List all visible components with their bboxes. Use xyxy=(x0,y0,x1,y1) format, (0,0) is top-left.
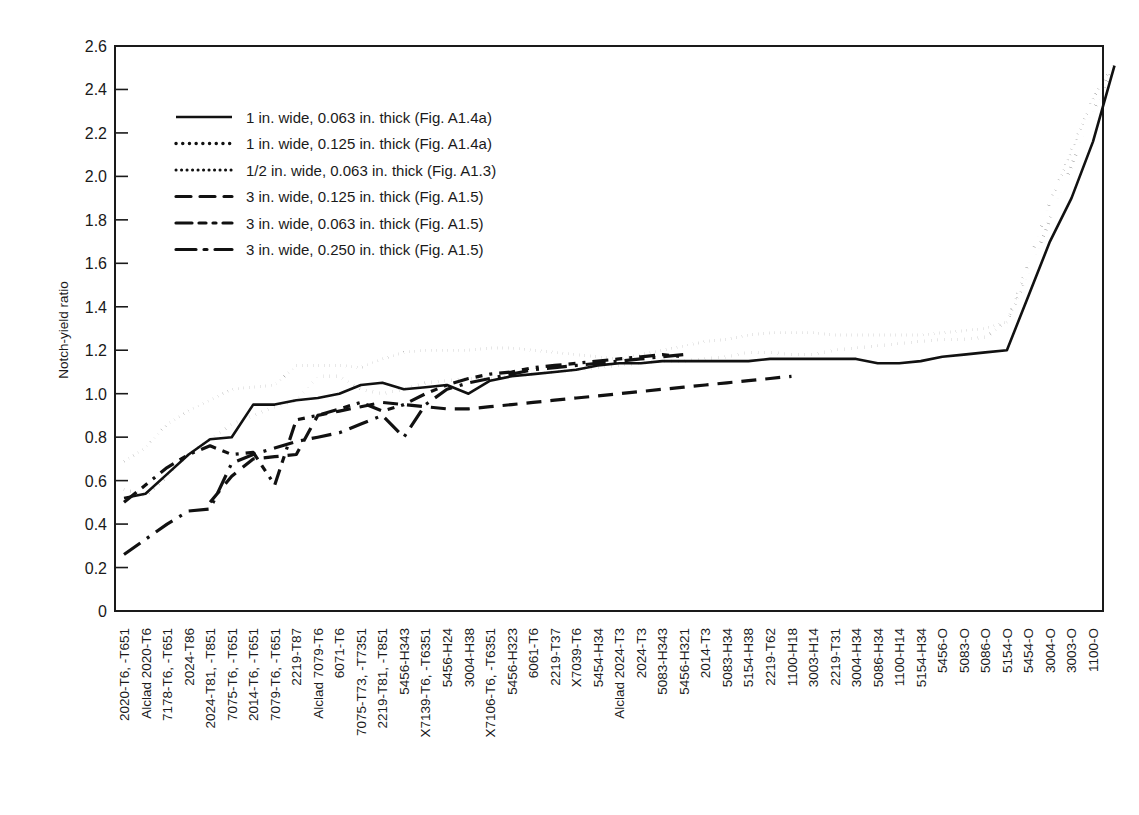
y-axis-tick-label: 0.4 xyxy=(85,516,107,533)
x-axis-tick-label: 5083-O xyxy=(957,628,972,673)
x-axis-tick-label: 5154-O xyxy=(1000,628,1015,673)
x-axis-tick-label: 3004-H34 xyxy=(849,628,864,688)
x-axis-tick-label: 5454-O xyxy=(1021,628,1036,673)
y-axis-tick-label: 0.8 xyxy=(85,429,107,446)
y-axis-tick-label: 2.0 xyxy=(85,168,107,185)
x-axis-tick-label: 5456-H323 xyxy=(505,628,520,695)
x-axis-tick-label: 6061-T6 xyxy=(526,628,541,678)
y-axis-tick-label: 2.6 xyxy=(85,38,107,55)
chart-figure-root: Notch-yield ratio 00.20.40.60.81.01.21.4… xyxy=(0,0,1139,815)
y-axis-title: Notch-yield ratio xyxy=(56,281,71,379)
x-axis-tick-label: 5456-H343 xyxy=(397,628,412,695)
legend-label: 1 in. wide, 0.063 in. thick (Fig. A1.4a) xyxy=(246,109,492,126)
y-axis-tick-label: 0.6 xyxy=(85,473,107,490)
x-axis-tick-label: 2024-T86 xyxy=(182,628,197,686)
y-axis-tick-label: 0.2 xyxy=(85,560,107,577)
x-axis-tick-label: 7178-T6, -T651 xyxy=(160,628,175,721)
x-axis-tick-label: 3003-H14 xyxy=(806,628,821,688)
x-axis-tick-label: 5083-H343 xyxy=(655,628,670,695)
y-axis-tick-label: 0 xyxy=(98,603,107,620)
x-axis-tick-label: 5456-O xyxy=(935,628,950,673)
x-axis-tick-label: 2219-T31 xyxy=(828,628,843,686)
x-axis-tick-label: 7075-T73, -T7351 xyxy=(354,628,369,736)
x-axis-tick-label: 5154-H34 xyxy=(914,628,929,688)
legend-label: 1 in. wide, 0.125 in. thick (Fig. A1.4a) xyxy=(246,135,492,152)
notch-yield-ratio-chart: Notch-yield ratio 00.20.40.60.81.01.21.4… xyxy=(0,0,1139,815)
x-axis-tick-label: 3004-O xyxy=(1043,628,1058,673)
x-axis-tick-label: 5456-H321 xyxy=(677,628,692,695)
y-axis-tick-label: 1.6 xyxy=(85,255,107,272)
x-axis-tick-label: 3003-O xyxy=(1064,628,1079,673)
x-axis-tick-label: 2219-T81, -T851 xyxy=(375,628,390,729)
x-axis-tick-label: 2014-T6, -T651 xyxy=(246,628,261,721)
x-axis-tick-label: Alclad 2024-T3 xyxy=(612,628,627,719)
x-axis-tick-label: 2219-T37 xyxy=(548,628,563,686)
x-axis-tick-label: 7079-T6, -T651 xyxy=(268,628,283,721)
x-axis-tick-label: 5086-H34 xyxy=(871,628,886,688)
x-axis-tick-label: 2014-T3 xyxy=(698,628,713,678)
y-axis-tick-label: 2.4 xyxy=(85,81,107,98)
x-axis-tick-label: Alclad 7079-T6 xyxy=(311,628,326,719)
x-axis-tick-label: 2024-T81, -T851 xyxy=(203,628,218,729)
x-axis-tick-label: 6071-T6 xyxy=(332,628,347,678)
x-axis-tick-label: X7139-T6, -T6351 xyxy=(418,628,433,738)
x-axis-tick-label: 3004-H38 xyxy=(462,628,477,687)
y-axis-tick-label: 1.4 xyxy=(85,299,107,316)
x-axis-tick-label: 5154-H38 xyxy=(741,628,756,687)
x-axis-tick-label: 2020-T6, -T651 xyxy=(117,628,132,721)
x-axis-tick-label: 1100-H14 xyxy=(892,628,907,687)
x-axis-tick-label: 2024-T3 xyxy=(634,628,649,678)
x-axis-tick-label: 5454-H34 xyxy=(591,628,606,688)
y-axis-tick-label: 2.2 xyxy=(85,125,107,142)
x-axis-tick-label: 2219-T87 xyxy=(289,628,304,686)
y-axis-tick-label: 1.0 xyxy=(85,386,107,403)
legend-label: 3 in. wide, 0.250 in. thick (Fig. A1.5) xyxy=(246,241,484,258)
legend-label: 3 in. wide, 0.063 in. thick (Fig. A1.5) xyxy=(246,215,484,232)
x-axis-tick-label: 2219-T62 xyxy=(763,628,778,686)
legend-label: 1/2 in. wide, 0.063 in. thick (Fig. A1.3… xyxy=(246,162,496,179)
x-axis-tick-label: 5456-H24 xyxy=(440,628,455,688)
y-axis-tick-label: 1.8 xyxy=(85,212,107,229)
x-axis-tick-label: Alclad 2020-T6 xyxy=(139,628,154,719)
x-axis-tick-label: 5083-H34 xyxy=(720,628,735,688)
x-axis-tick-label: 1100-H18 xyxy=(785,628,800,686)
x-axis-tick-label: X7106-T6, -T6351 xyxy=(483,628,498,738)
x-axis-tick-label: 7075-T6, -T651 xyxy=(225,628,240,721)
x-axis-tick-label: X7039-T6 xyxy=(569,628,584,687)
legend-label: 3 in. wide, 0.125 in. thick (Fig. A1.5) xyxy=(246,188,484,205)
x-axis-tick-label: 1100-O xyxy=(1086,628,1101,672)
y-axis-tick-label: 1.2 xyxy=(85,342,107,359)
x-axis-tick-label: 5086-O xyxy=(978,628,993,673)
